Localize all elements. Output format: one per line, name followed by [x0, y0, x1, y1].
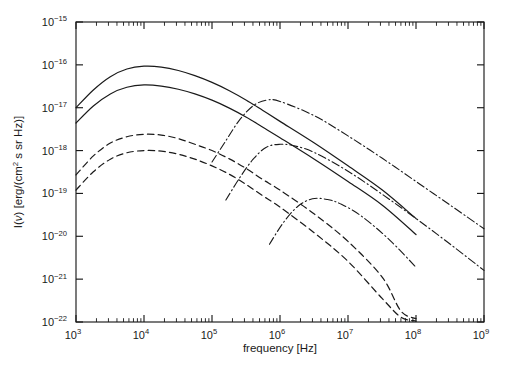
x-axis-title: frequency [Hz]	[243, 342, 317, 354]
tick-label: 107	[337, 327, 353, 341]
data-curves	[76, 66, 484, 321]
tick-label: 10−18	[42, 143, 67, 157]
tick-label: 10−22	[42, 314, 67, 328]
figure-container: 10310410510610710810910−1510−1610−1710−1…	[0, 0, 513, 365]
tick-label: 109	[473, 327, 489, 341]
tick-label: 108	[405, 327, 421, 341]
curve-solid-lower	[76, 85, 416, 235]
tick-label: 106	[269, 327, 285, 341]
tick-label: 105	[201, 327, 217, 341]
curve-dashdot-middle	[226, 144, 484, 270]
tick-label: 104	[133, 327, 149, 341]
tick-label: 10−17	[42, 100, 67, 114]
curve-dashed-lower	[76, 150, 416, 321]
tick-label: 10−21	[42, 272, 67, 286]
tick-label: 10−16	[42, 57, 67, 71]
tick-label: 103	[65, 327, 81, 341]
curve-solid-upper	[76, 66, 416, 218]
curve-dashed-upper	[76, 134, 416, 318]
spectrum-plot: 10310410510610710810910−1510−1610−1710−1…	[0, 0, 513, 365]
axis-tick-labels: 10310410510610710810910−1510−1610−1710−1…	[42, 14, 489, 341]
y-axis-title: I(ν) [erg/(cm2 s sr Hz)]	[11, 116, 24, 228]
tick-label: 10−20	[42, 229, 67, 243]
tick-label: 10−19	[42, 186, 67, 200]
tick-label: 10−15	[42, 14, 67, 28]
curve-dashdot-upper	[212, 100, 484, 229]
